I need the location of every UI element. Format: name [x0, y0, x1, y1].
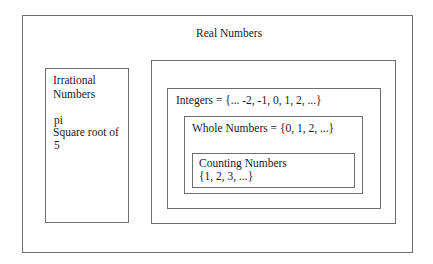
- integers-label: Integers = {... -2, -1, 0, 1, 2, ...}: [176, 94, 322, 107]
- whole-numbers-label: Whole Numbers = {0, 1, 2, ...}: [192, 122, 334, 135]
- counting-label-line2: {1, 2, 3, ...}: [199, 170, 253, 183]
- irrational-example-sqrt-5: 5: [54, 139, 60, 152]
- counting-label-line1: Counting Numbers: [199, 157, 287, 170]
- irrational-label-line2: Numbers: [53, 88, 95, 101]
- real-numbers-label: Real Numbers: [196, 27, 262, 40]
- irrational-label-line1: Irrational: [53, 74, 96, 87]
- irrational-example-sqrt: Square root of: [53, 126, 119, 139]
